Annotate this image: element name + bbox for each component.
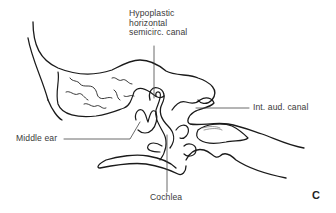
lower-lateral-contour bbox=[48, 100, 62, 120]
diagram-canvas: Hypoplastic horizontal semicirc. canal I… bbox=[0, 0, 336, 213]
mastoid-air-cells-3 bbox=[112, 78, 134, 100]
label-hypoplastic-canal: Hypoplastic horizontal semicirc. canal bbox=[129, 9, 187, 38]
outer-skull-contour bbox=[33, 22, 215, 103]
mastoid-air-cells-2 bbox=[66, 92, 106, 109]
petrous-lower-contour bbox=[186, 149, 286, 178]
semicircular-canal-loop bbox=[149, 88, 173, 148]
mastoid-air-cells bbox=[70, 78, 112, 99]
panel-letter: C bbox=[312, 189, 320, 201]
mastoid-outline bbox=[57, 72, 164, 117]
label-int-aud-canal: Int. aud. canal bbox=[253, 103, 309, 113]
middle-ear-structure bbox=[135, 110, 156, 133]
leader-middle-ear bbox=[64, 122, 140, 139]
semicircular-canal-inner bbox=[156, 92, 166, 160]
cochlea-lower-contour bbox=[98, 155, 186, 174]
cochlea-upper-finger bbox=[148, 143, 162, 152]
outer-skull-left bbox=[28, 38, 48, 100]
label-middle-ear: Middle ear bbox=[16, 134, 57, 144]
int-aud-canal-hatch bbox=[202, 127, 222, 131]
label-cochlea: Cochlea bbox=[150, 193, 182, 203]
